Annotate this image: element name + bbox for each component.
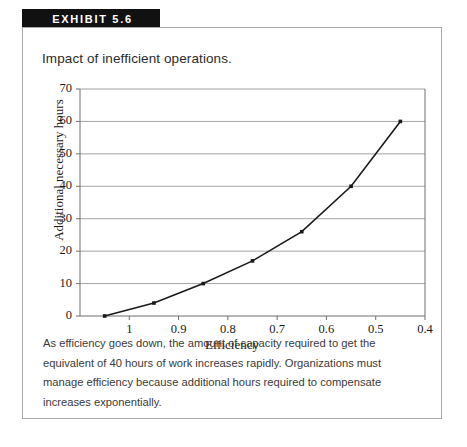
data-point-marker bbox=[152, 301, 156, 305]
data-point-marker bbox=[300, 230, 304, 234]
y-tick-label: 50 bbox=[46, 146, 72, 161]
gridlines bbox=[80, 89, 425, 316]
y-tick-label: 20 bbox=[46, 243, 72, 258]
exhibit-figure: EXHIBIT 5.6 Impact of inefficient operat… bbox=[0, 0, 467, 447]
y-tick-label: 0 bbox=[46, 308, 72, 323]
y-tick-label: 70 bbox=[46, 81, 72, 96]
data-point-marker bbox=[349, 184, 353, 188]
axis-tick-marks bbox=[76, 89, 425, 320]
exhibit-number-banner: EXHIBIT 5.6 bbox=[22, 9, 160, 28]
figure-caption: As efficiency goes down, the amount of c… bbox=[43, 334, 388, 412]
plot-frame bbox=[80, 89, 425, 316]
x-tick-label: 0.4 bbox=[410, 322, 440, 337]
y-tick-label: 60 bbox=[46, 113, 72, 128]
y-tick-label: 30 bbox=[46, 211, 72, 226]
data-point-marker bbox=[201, 282, 205, 286]
y-tick-label: 40 bbox=[46, 178, 72, 193]
data-point-marker bbox=[103, 314, 107, 318]
data-point-marker bbox=[251, 259, 255, 263]
data-point-marker bbox=[399, 120, 403, 124]
line-chart-svg bbox=[22, 27, 442, 357]
y-tick-label: 10 bbox=[46, 276, 72, 291]
